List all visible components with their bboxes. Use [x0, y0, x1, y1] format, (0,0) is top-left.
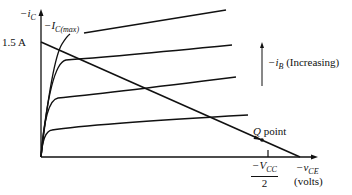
- y-axis-arrow-icon: [39, 9, 44, 16]
- ib-increasing-label: −iB (Increasing): [268, 57, 339, 72]
- x-axis-arrow-icon: [311, 155, 318, 160]
- q-point-label: QQ point point: [253, 126, 286, 137]
- q-point-marker: [260, 138, 264, 142]
- icmax-label: −IC(max): [44, 20, 79, 35]
- y-intercept-label: 1.5 A: [2, 37, 26, 48]
- x-axis-units: (volts): [294, 176, 323, 187]
- vcc-half-label: −VCC 2: [251, 160, 278, 189]
- ib-arrow-head-icon: [260, 42, 264, 48]
- ib-curve-3: [41, 45, 232, 157]
- y-axis-label: −iC: [20, 8, 36, 23]
- ib-curve-4: [84, 10, 226, 33]
- ib-curve-1: [41, 115, 248, 157]
